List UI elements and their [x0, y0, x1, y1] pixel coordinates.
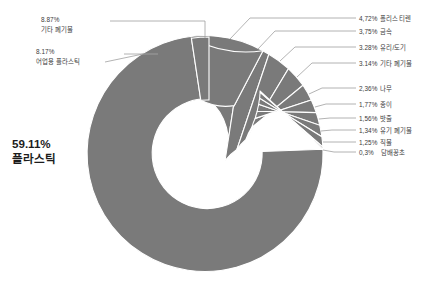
label-polystyrene-pct: 4,72%	[359, 15, 377, 22]
label-plastic-main: 59.11% 플라스틱	[12, 137, 56, 166]
label-fishing-plastic-pct: 8.17%	[36, 47, 80, 57]
label-glass-ceramic: 3.28%유리/도기	[359, 43, 406, 52]
label-textile-pct: 1,25%	[359, 139, 377, 146]
leader-line-rope	[319, 118, 356, 119]
label-wood: 2,36%나무	[359, 84, 392, 93]
leader-line-polystyrene	[230, 18, 356, 39]
leader-line-other-waste-top	[110, 21, 205, 38]
label-other-waste-top: 8.87% 기타 폐기물	[41, 15, 73, 36]
donut-chart: 8.87% 기타 폐기물 8.17% 어업용 플라스틱 59.11% 플라스틱 …	[0, 0, 442, 291]
label-rope-name: 밧줄	[380, 115, 392, 122]
label-polystyrene: 4,72%폴리스티렌	[359, 14, 411, 23]
label-wood-pct: 2,36%	[359, 85, 377, 92]
label-metal: 3,75%금속	[359, 27, 392, 36]
label-organic-waste: 1,34%유기 폐기물	[359, 126, 412, 135]
label-plastic-main-pct: 59.11%	[12, 137, 56, 152]
label-plastic-main-name: 플라스틱	[12, 152, 56, 167]
label-metal-name: 금속	[380, 28, 392, 35]
leader-line-cigarette-butts	[323, 150, 356, 152]
label-fishing-plastic: 8.17% 어업용 플라스틱	[36, 47, 80, 68]
label-metal-pct: 3,75%	[359, 28, 377, 35]
label-textile-name: 직물	[380, 139, 392, 146]
label-glass-ceramic-pct: 3.28%	[359, 44, 377, 51]
leader-line-organic-waste	[321, 130, 356, 131]
label-cigarette-butts: 0,3%담배꽁초	[359, 148, 405, 157]
leader-line-glass-ceramic	[280, 47, 356, 61]
leader-line-wood	[309, 88, 356, 94]
leader-line-metal	[258, 31, 356, 49]
label-cigarette-butts-name: 담배꽁초	[381, 149, 405, 156]
label-paper-name: 종이	[380, 101, 392, 108]
donut-slices	[87, 36, 323, 272]
label-paper: 1,77%종이	[359, 100, 392, 109]
label-cigarette-butts-pct: 0,3%	[359, 149, 374, 156]
label-other-waste-right-name: 기타 폐기물	[380, 60, 412, 67]
label-other-waste-top-name: 기타 폐기물	[41, 25, 73, 35]
label-organic-waste-pct: 1,34%	[359, 127, 377, 134]
label-paper-pct: 1,77%	[359, 101, 377, 108]
label-rope-pct: 1,56%	[359, 115, 377, 122]
leader-line-other-waste-right	[297, 63, 356, 77]
leader-line-paper	[315, 104, 356, 107]
label-glass-ceramic-name: 유리/도기	[380, 44, 406, 51]
label-textile: 1,25%직물	[359, 138, 392, 147]
label-rope: 1,56%밧줄	[359, 114, 392, 123]
label-organic-waste-name: 유기 폐기물	[380, 127, 412, 134]
label-other-waste-right-pct: 3.14%	[359, 60, 377, 67]
label-wood-name: 나무	[380, 85, 392, 92]
label-polystyrene-name: 폴리스티렌	[380, 15, 410, 22]
label-other-waste-top-pct: 8.87%	[41, 15, 73, 25]
label-fishing-plastic-name: 어업용 플라스틱	[36, 57, 80, 67]
label-other-waste-right: 3.14%기타 폐기물	[359, 59, 412, 68]
